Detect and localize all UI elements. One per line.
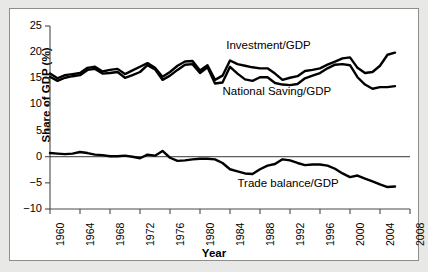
x-axis-title: Year <box>0 247 428 259</box>
x-tick-label: 1992 <box>294 223 306 246</box>
x-tick-label: 2000 <box>354 223 366 246</box>
x-tick-label: 1980 <box>204 223 216 246</box>
y-tick-label: 5 <box>12 124 42 136</box>
x-tick-label: 1960 <box>54 223 66 246</box>
series-label: Trade balance/GDP <box>238 177 339 189</box>
y-tick-label: −10 <box>12 202 42 214</box>
y-tick-label: 25 <box>12 19 42 31</box>
x-tick-label: 1964 <box>84 223 96 246</box>
figure-background: Share of GDP (%) −10−50510152025 1960196… <box>0 0 428 272</box>
chart-panel: Share of GDP (%) −10−50510152025 1960196… <box>9 8 419 261</box>
series-label: National Saving/GDP <box>223 85 332 97</box>
x-tick-label: 1976 <box>174 223 186 246</box>
y-tick-label: 10 <box>12 97 42 109</box>
x-tick-label: 1968 <box>114 223 126 246</box>
x-tick-label: 1988 <box>264 223 276 246</box>
y-tick-label: 20 <box>12 45 42 57</box>
x-tick-label: 1984 <box>234 223 246 246</box>
x-tick-label: 1972 <box>144 223 156 246</box>
y-tick-label: 0 <box>12 150 42 162</box>
y-tick-label: 15 <box>12 71 42 83</box>
x-tick-label: 2008 <box>414 223 426 246</box>
y-tick-label: −5 <box>12 176 42 188</box>
x-tick-label: 2004 <box>384 223 396 246</box>
series-label: Investment/GDP <box>226 39 310 51</box>
x-tick-label: 1996 <box>324 223 336 246</box>
